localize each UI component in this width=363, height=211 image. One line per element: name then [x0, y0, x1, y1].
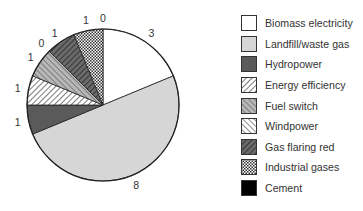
- legend-item: Fuel switch: [241, 95, 353, 116]
- legend-swatch: [241, 77, 257, 93]
- legend-swatch: [241, 159, 257, 175]
- slice-value-label: 8: [133, 179, 139, 191]
- slice-value-label: 0: [100, 12, 106, 24]
- legend-swatch: [241, 56, 257, 72]
- pie-chart: 381110110 Biomass electricityLandfill/wa…: [0, 0, 363, 211]
- pie-plot: 381110110: [0, 0, 230, 211]
- legend-swatch: [241, 36, 257, 52]
- slice-value-label: 0: [39, 37, 45, 49]
- legend-label: Windpower: [265, 120, 318, 132]
- legend-label: Biomass electricity: [265, 17, 353, 29]
- pie-slices: [27, 29, 179, 181]
- legend-label: Energy efficiency: [265, 79, 345, 91]
- legend-label: Cement: [265, 182, 302, 194]
- slice-value-label: 1: [28, 51, 34, 63]
- slice-value-label: 1: [52, 27, 58, 39]
- slice-value-label: 1: [83, 14, 89, 26]
- legend-item: Cement: [241, 178, 353, 199]
- legend-label: Hydropower: [265, 58, 322, 70]
- slice-value-label: 1: [15, 82, 21, 94]
- legend-item: Industrial gases: [241, 157, 353, 178]
- legend-label: Industrial gases: [265, 161, 339, 173]
- legend-label: Gas flaring red: [265, 141, 334, 153]
- chart-legend: Biomass electricityLandfill/waste gasHyd…: [241, 13, 353, 198]
- legend-item: Windpower: [241, 116, 353, 137]
- legend-swatch: [241, 98, 257, 114]
- legend-swatch: [241, 118, 257, 134]
- legend-swatch: [241, 139, 257, 155]
- slice-value-label: 3: [148, 27, 154, 39]
- legend-item: Gas flaring red: [241, 137, 353, 158]
- legend-label: Fuel switch: [265, 100, 318, 112]
- legend-label: Landfill/waste gas: [265, 38, 349, 50]
- legend-item: Landfill/waste gas: [241, 34, 353, 55]
- legend-swatch: [241, 15, 257, 31]
- legend-item: Energy efficiency: [241, 75, 353, 96]
- legend-item: Hydropower: [241, 54, 353, 75]
- slice-value-label: 1: [15, 116, 21, 128]
- legend-item: Biomass electricity: [241, 13, 353, 34]
- legend-swatch: [241, 180, 257, 196]
